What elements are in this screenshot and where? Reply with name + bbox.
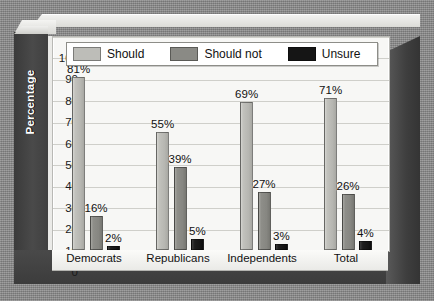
bar-total-should: 71% <box>324 98 337 250</box>
bar-value-label: 16% <box>84 202 107 214</box>
bar-value-label: 71% <box>319 84 342 96</box>
bar-independents-should: 69% <box>240 102 253 250</box>
legend-swatch <box>73 47 101 61</box>
bar-rect <box>156 132 169 250</box>
bar-total-should-not: 26% <box>342 194 355 250</box>
bars-layer: 81%16%2%55%39%5%69%27%3%71%26%4% <box>52 36 388 250</box>
bar-independents-should-not: 27% <box>258 192 271 250</box>
chart-3d-frame: Percentage Affiliation 01020304050607080… <box>14 14 420 284</box>
frame-top-bevel <box>32 14 420 27</box>
x-category-label: Independents <box>227 252 297 264</box>
legend-label: Should <box>107 47 144 61</box>
legend-item-unsure[interactable]: Unsure <box>288 47 361 61</box>
bar-rect <box>258 192 271 250</box>
bar-republicans-should-not: 39% <box>174 167 187 250</box>
legend-item-should[interactable]: Should <box>73 47 144 61</box>
bar-total-unsure: 4% <box>359 241 372 250</box>
x-category-band: DemocratsRepublicansIndependentsTotal <box>52 250 388 271</box>
bar-rect <box>324 98 337 250</box>
bar-rect <box>90 216 103 250</box>
frame-right-wall <box>386 36 420 284</box>
bar-rect <box>174 167 187 250</box>
legend-item-should-not[interactable]: Should not <box>170 47 261 61</box>
bar-value-label: 4% <box>357 227 374 239</box>
x-category-label: Democrats <box>66 252 122 264</box>
bar-rect <box>72 77 85 250</box>
bar-value-label: 69% <box>235 88 258 100</box>
bar-value-label: 5% <box>189 225 206 237</box>
bar-value-label: 26% <box>336 180 359 192</box>
x-category-label: Total <box>334 252 358 264</box>
y-axis-title: Percentage <box>20 42 40 162</box>
bar-rect <box>240 102 253 250</box>
legend-label: Unsure <box>322 47 361 61</box>
bar-rect <box>359 241 372 250</box>
bar-value-label: 39% <box>168 153 191 165</box>
bar-republicans-unsure: 5% <box>191 239 204 250</box>
bar-value-label: 27% <box>252 178 275 190</box>
x-category-label: Republicans <box>146 252 209 264</box>
bar-democrats-should: 81% <box>72 77 85 250</box>
bar-democrats-should-not: 16% <box>90 216 103 250</box>
bar-rect <box>342 194 355 250</box>
legend-label: Should not <box>204 47 261 61</box>
bar-republicans-should: 55% <box>156 132 169 250</box>
legend-swatch <box>288 47 316 61</box>
legend-swatch <box>170 47 198 61</box>
bar-value-label: 2% <box>105 232 122 244</box>
bar-value-label: 3% <box>273 230 290 242</box>
bar-value-label: 55% <box>151 118 174 130</box>
bar-rect <box>191 239 204 250</box>
chart-legend: ShouldShould notUnsure <box>66 42 378 66</box>
